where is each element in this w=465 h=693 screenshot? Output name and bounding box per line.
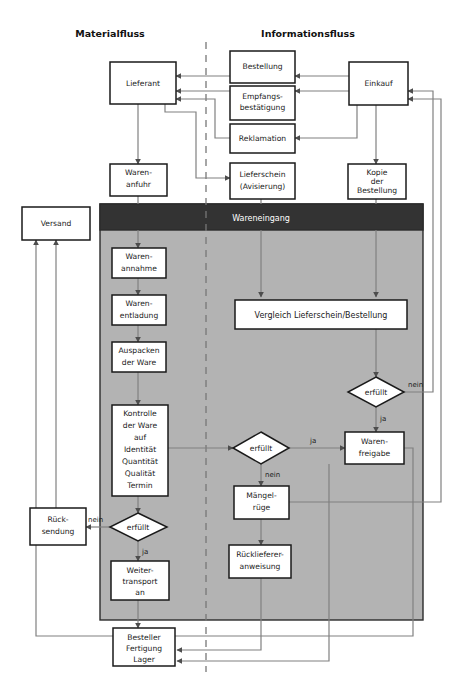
node-warenentladung-label-2: entladung xyxy=(120,311,159,320)
node-vergleich: Vergleich Lieferschein/Bestellung xyxy=(235,300,407,329)
node-auspacken-der-ware: Auspacken der Ware xyxy=(112,342,166,372)
node-kontrolle-label-4: Identität xyxy=(124,445,156,454)
node-maengelruege-label-1: Mängel- xyxy=(246,491,277,500)
node-auspacken-label-1: Auspacken xyxy=(118,346,159,355)
node-warenfreigabe: Waren- freigabe xyxy=(345,432,404,464)
node-bestellung: Bestellung xyxy=(230,51,295,83)
node-weitertransport-label-3: an xyxy=(135,588,145,597)
edge-label-mitte-ja: ja xyxy=(309,437,316,445)
node-lieferschein-label-1: Lieferschein xyxy=(239,170,285,179)
edge-label-oben-ja: ja xyxy=(379,415,386,423)
node-lieferschein-box xyxy=(230,163,295,199)
edge-label-links-nein: nein xyxy=(88,516,103,524)
node-maengelruege: Mängel- rüge xyxy=(234,486,289,519)
node-kontrolle-label-6: Qualität xyxy=(125,469,155,478)
node-warenentladung: Waren- entladung xyxy=(112,295,166,325)
node-versand-label: Versand xyxy=(41,219,72,228)
node-warenannahme-label-1: Waren- xyxy=(126,252,153,261)
node-ruecksendung: Rück- sendung xyxy=(30,508,86,545)
node-besteller: Besteller Fertigung Lager xyxy=(113,628,175,666)
node-erfuellt-links-label: erfüllt xyxy=(127,523,149,532)
node-ruecksendung-label-1: Rück- xyxy=(47,515,68,524)
node-besteller-label-1: Besteller xyxy=(127,633,161,642)
node-kopie-label-1: Kopie xyxy=(367,168,388,177)
node-warenanfuhr-label-2: anfuhr xyxy=(126,180,152,189)
node-bestellung-label: Bestellung xyxy=(242,62,282,71)
node-erfuellt-oben-label: erfüllt xyxy=(365,388,387,397)
node-einkauf: Einkauf xyxy=(349,62,408,105)
node-lieferant-label: Lieferant xyxy=(126,79,160,88)
flowchart-figure: Wareneingang Materialfluss Informationsf… xyxy=(0,0,465,693)
node-reklamation: Reklamation xyxy=(230,124,295,153)
node-weitertransport: Weiter- transport an xyxy=(111,561,169,600)
node-kontrolle-label-7: Termin xyxy=(126,481,153,490)
node-warenanfuhr: Waren- anfuhr xyxy=(110,164,167,196)
node-empfangsbestaetigung-label-2: bestätigung xyxy=(240,103,286,112)
node-maengelruege-label-2: rüge xyxy=(253,503,271,512)
column-title-informationsfluss: Informationsfluss xyxy=(261,28,355,39)
node-warenentladung-label-1: Waren- xyxy=(126,299,153,308)
node-kopie-label-3: Bestellung xyxy=(357,186,397,195)
node-warenfreigabe-label-2: freigabe xyxy=(359,449,391,458)
node-kontrolle-der-ware: Kontrolle der Ware auf Identität Quantit… xyxy=(112,405,168,496)
node-warenannahme-label-2: annahme xyxy=(121,264,157,273)
swimlane-title: Wareneingang xyxy=(232,214,290,223)
node-weitertransport-label-2: transport xyxy=(122,577,157,586)
node-rucklieferanweisung: Rücklieferer- anweisung xyxy=(229,545,291,578)
node-einkauf-label: Einkauf xyxy=(364,79,392,88)
node-reklamation-label: Reklamation xyxy=(239,134,287,143)
node-erfuellt-mitte-label: erfüllt xyxy=(250,444,272,453)
node-warenanfuhr-label-1: Waren- xyxy=(125,168,152,177)
node-warenfreigabe-label-1: Waren- xyxy=(361,437,388,446)
node-versand: Versand xyxy=(22,207,90,240)
node-kopie-der-bestellung: Kopie der Bestellung xyxy=(348,164,406,199)
edge-label-oben-nein: nein xyxy=(408,381,423,389)
edge-label-links-ja: ja xyxy=(141,548,148,556)
flowchart-canvas: Wareneingang Materialfluss Informationsf… xyxy=(0,0,465,693)
node-kontrolle-label-1: Kontrolle xyxy=(123,409,157,418)
node-rucklieferanweisung-label-1: Rücklieferer- xyxy=(236,550,284,559)
node-vergleich-label: Vergleich Lieferschein/Bestellung xyxy=(255,311,388,320)
node-empfangsbestaetigung: Empfangs- bestätigung xyxy=(230,86,295,120)
node-besteller-label-2: Fertigung xyxy=(126,644,162,653)
node-lieferant: Lieferant xyxy=(110,62,176,104)
node-ruecksendung-label-2: sendung xyxy=(42,527,75,536)
node-empfangsbestaetigung-label-1: Empfangs- xyxy=(242,92,283,101)
node-kopie-label-2: der xyxy=(371,177,384,186)
node-lieferschein: Lieferschein (Avisierung) xyxy=(230,163,295,199)
node-kontrolle-label-5: Quantität xyxy=(122,457,158,466)
column-title-materialfluss: Materialfluss xyxy=(75,28,145,39)
edge-label-mitte-nein: nein xyxy=(265,471,280,479)
node-besteller-label-3: Lager xyxy=(133,655,155,664)
node-lieferschein-label-2: (Avisierung) xyxy=(240,182,286,191)
node-kontrolle-label-2: der Ware xyxy=(123,421,158,430)
node-weitertransport-label-1: Weiter- xyxy=(127,566,154,575)
node-kontrolle-label-3: auf xyxy=(134,433,146,442)
node-auspacken-label-2: der Ware xyxy=(122,358,157,367)
node-rucklieferanweisung-label-2: anweisung xyxy=(240,562,281,571)
node-warenannahme: Waren- annahme xyxy=(112,248,166,278)
